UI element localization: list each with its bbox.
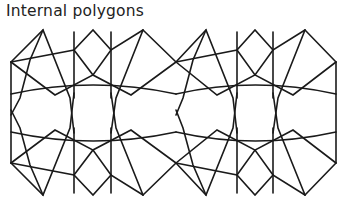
left-rosette — [11, 30, 176, 195]
geometric-pattern — [0, 0, 343, 209]
right-rosette — [176, 30, 336, 195]
